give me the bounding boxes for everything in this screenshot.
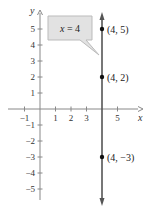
coordinate-plane: xy −1123554321−1−2−3−4−5 x = 4 (4, 5)(4,…	[0, 0, 149, 213]
data-point	[100, 27, 104, 31]
y-tick-label: 3	[31, 56, 36, 66]
data-point	[100, 75, 104, 79]
line-bottom-arrow-icon	[100, 198, 105, 206]
y-tick-label: −2	[25, 136, 35, 146]
x-axis-label: x	[137, 112, 143, 123]
y-tick-label: 1	[31, 88, 36, 98]
y-tick-label: −5	[25, 184, 35, 194]
x-tick-label: 3	[84, 113, 89, 123]
y-tick-label: −4	[25, 168, 35, 178]
line-top-arrow-icon	[100, 12, 105, 20]
data-point-label: (4, −3)	[107, 152, 134, 164]
y-tick-label: 5	[31, 24, 36, 34]
x-tick-label: 2	[69, 113, 74, 123]
y-tick-label: 2	[31, 72, 36, 82]
y-tick-label: −3	[25, 152, 35, 162]
callout-text: x = 4	[59, 23, 80, 34]
x-axis-arrow-icon	[138, 107, 143, 112]
y-axis-label: y	[29, 5, 35, 16]
data-points: (4, 5)(4, 2)(4, −3)	[100, 24, 135, 164]
x-tick-label: 5	[115, 113, 120, 123]
callout-x-equals-4: x = 4	[48, 16, 99, 55]
data-point-label: (4, 2)	[107, 72, 129, 84]
data-point	[100, 155, 104, 159]
y-tick-label: 4	[31, 40, 36, 50]
y-tick-label: −1	[25, 120, 35, 130]
x-tick-label: 1	[53, 113, 58, 123]
data-point-label: (4, 5)	[107, 24, 129, 36]
